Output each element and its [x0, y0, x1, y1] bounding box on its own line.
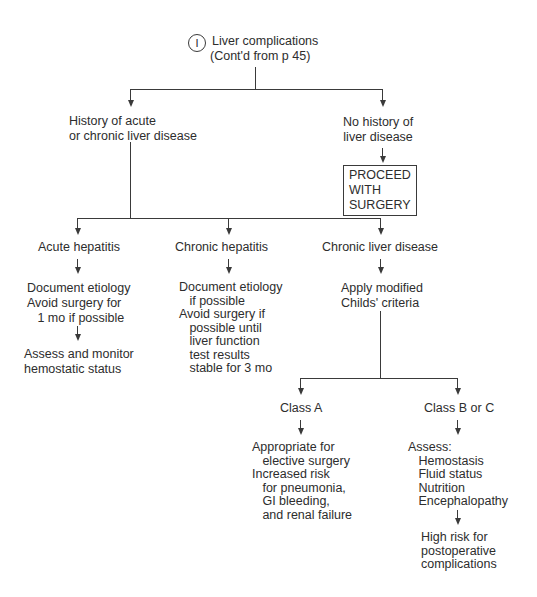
arrow-down-icon: [75, 334, 81, 341]
connector: [255, 67, 256, 89]
arrow-down-icon: [298, 388, 304, 395]
arrow-down-icon: [378, 267, 384, 274]
arrow-down-icon: [455, 388, 461, 395]
node-chronic-liver-disease: Chronic liver disease: [322, 240, 438, 255]
node-history-liver-disease: History of acute or chronic liver diseas…: [69, 114, 197, 144]
connector: [380, 311, 381, 378]
connector: [300, 378, 458, 379]
arrow-down-icon: [455, 428, 461, 435]
connector: [130, 89, 383, 90]
arrow-down-icon: [75, 228, 81, 235]
arrow-down-icon: [75, 267, 81, 274]
arrow-down-icon: [380, 100, 386, 107]
node-class-a-guidance: Appropriate for elective surgery Increas…: [252, 441, 352, 522]
node-acute-document-etiology: Document etiology Avoid surgery for 1 mo…: [27, 281, 131, 326]
node-high-risk-complications: High risk for postoperative complication…: [421, 531, 497, 572]
flow-subtitle: (Cont'd from p 45): [210, 49, 310, 64]
arrow-down-icon: [128, 100, 134, 107]
connector: [130, 142, 131, 218]
node-class-bc-assess: Assess: Hemostasis Fluid status Nutritio…: [408, 441, 508, 509]
node-assess-hemostatic-status: Assess and monitor hemostatic status: [24, 347, 134, 377]
node-apply-childs-criteria: Apply modified Childs' criteria: [341, 281, 423, 311]
node-chronic-hepatitis: Chronic hepatitis: [175, 240, 268, 255]
section-badge-icon: I: [188, 34, 206, 52]
node-class-b-or-c: Class B or C: [424, 401, 494, 416]
node-class-a: Class A: [280, 401, 322, 416]
flow-title: Liver complications: [212, 34, 318, 49]
arrow-down-icon: [298, 428, 304, 435]
proceed-with-surgery-box: PROCEED WITH SURGERY: [343, 165, 417, 216]
node-acute-hepatitis: Acute hepatitis: [38, 240, 120, 255]
arrow-down-icon: [226, 267, 232, 274]
node-no-history: No history of liver disease: [343, 115, 413, 145]
arrow-down-icon: [378, 228, 384, 235]
arrow-down-icon: [455, 518, 461, 525]
node-chronic-hepatitis-guidance: Document etiology if possible Avoid surg…: [179, 281, 283, 376]
arrow-down-icon: [226, 228, 232, 235]
arrow-down-icon: [380, 156, 386, 163]
